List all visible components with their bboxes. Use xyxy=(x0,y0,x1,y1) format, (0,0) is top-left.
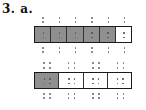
grid-dot xyxy=(123,62,125,64)
grid-dot xyxy=(44,78,46,80)
grid-dot xyxy=(49,67,51,69)
grid-dot xyxy=(98,97,100,99)
grid-dot xyxy=(117,83,119,85)
grid-dot xyxy=(42,47,44,49)
grid-dot xyxy=(59,32,61,34)
fraction-cell-shaded xyxy=(100,27,116,42)
grid-dot xyxy=(75,21,77,23)
grid-dot xyxy=(108,17,110,19)
grid-dot xyxy=(68,97,70,99)
grid-dot xyxy=(75,47,77,49)
grid-dot xyxy=(42,17,44,19)
grid-dot xyxy=(44,83,46,85)
grid-dot xyxy=(123,37,125,39)
grid-dot xyxy=(92,67,94,69)
grid-dot xyxy=(91,47,93,49)
grid-dot xyxy=(43,37,45,39)
fraction-cell xyxy=(84,73,108,88)
fraction-cell-shaded xyxy=(51,27,67,42)
grid-dot xyxy=(124,17,126,19)
grid-dot xyxy=(98,78,100,80)
grid-dot xyxy=(43,32,45,34)
grid-dot xyxy=(117,67,119,69)
grid-dot xyxy=(98,93,100,95)
fraction-cell-shaded xyxy=(84,27,100,42)
grid-dot xyxy=(124,21,126,23)
grid-dot xyxy=(123,32,125,34)
grid-dot xyxy=(91,32,93,34)
grid-dot xyxy=(107,37,109,39)
grid-dot xyxy=(75,51,77,53)
grid-dot xyxy=(123,67,125,69)
grid-dot xyxy=(98,67,100,69)
grid-dot xyxy=(117,93,119,95)
grid-dot xyxy=(49,93,51,95)
grid-dot xyxy=(49,97,51,99)
grid-dot xyxy=(91,21,93,23)
grid-dot xyxy=(43,93,45,95)
grid-dot xyxy=(107,32,109,34)
grid-dot xyxy=(92,78,94,80)
fraction-cell-shaded xyxy=(35,27,51,42)
grid-dot xyxy=(98,83,100,85)
grid-dot xyxy=(42,21,44,23)
grid-dot xyxy=(108,51,110,53)
grid-dot xyxy=(75,32,77,34)
fraction-cell xyxy=(116,27,131,42)
fraction-cell xyxy=(59,73,83,88)
grid-dot xyxy=(74,62,76,64)
grid-dot xyxy=(68,93,70,95)
grid-dot xyxy=(68,83,70,85)
grid-dot xyxy=(68,67,70,69)
grid-dot xyxy=(68,62,70,64)
grid-dot xyxy=(91,51,93,53)
grid-dot xyxy=(91,17,93,19)
grid-dot xyxy=(42,51,44,53)
grid-dot xyxy=(123,93,125,95)
grid-dot xyxy=(98,62,100,64)
fraction-bar-sixths xyxy=(34,26,132,43)
fraction-cell-shaded xyxy=(67,27,83,42)
grid-dot xyxy=(75,17,77,19)
grid-dot xyxy=(43,97,45,99)
grid-dot xyxy=(92,97,94,99)
grid-dot xyxy=(43,67,45,69)
grid-dot xyxy=(49,62,51,64)
grid-dot xyxy=(43,62,45,64)
grid-dot xyxy=(122,83,124,85)
grid-dot xyxy=(49,78,51,80)
grid-dot xyxy=(59,47,61,49)
grid-dot xyxy=(117,97,119,99)
grid-dot xyxy=(74,83,76,85)
grid-dot xyxy=(75,37,77,39)
grid-dot xyxy=(117,62,119,64)
grid-dot xyxy=(74,97,76,99)
grid-dot xyxy=(59,17,61,19)
fraction-bar-fourths xyxy=(34,72,132,89)
grid-dot xyxy=(49,83,51,85)
grid-dot xyxy=(123,97,125,99)
grid-dot xyxy=(117,78,119,80)
grid-dot xyxy=(59,21,61,23)
problem-label: 3. a. xyxy=(2,2,33,16)
grid-dot xyxy=(68,78,70,80)
fraction-cell-shaded xyxy=(35,73,59,88)
fraction-cell xyxy=(108,73,131,88)
grid-dot xyxy=(59,37,61,39)
grid-dot xyxy=(124,47,126,49)
grid-dot xyxy=(74,67,76,69)
grid-dot xyxy=(59,51,61,53)
grid-dot xyxy=(108,47,110,49)
grid-dot xyxy=(92,62,94,64)
grid-dot xyxy=(91,37,93,39)
grid-dot xyxy=(74,78,76,80)
grid-dot xyxy=(92,83,94,85)
grid-dot xyxy=(124,51,126,53)
grid-dot xyxy=(108,21,110,23)
grid-dot xyxy=(122,78,124,80)
grid-dot xyxy=(92,93,94,95)
grid-dot xyxy=(74,93,76,95)
